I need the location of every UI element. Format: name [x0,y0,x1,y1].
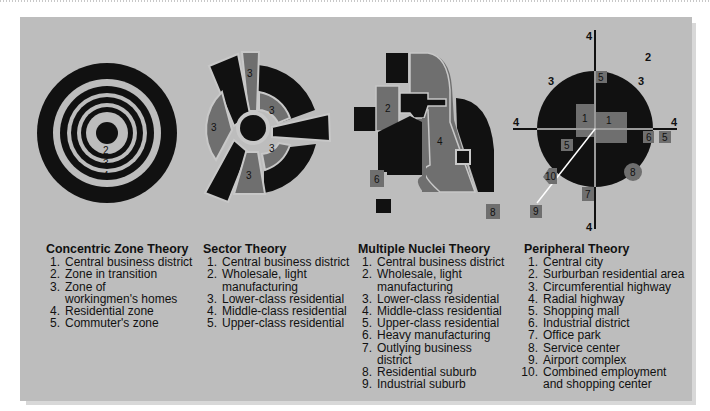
sector-label-3-bottom: 3 [246,170,252,181]
legend-item: 8.Service center [520,342,695,354]
legend-item: 3.Zone of workingmen's homes [46,281,196,305]
peripheral-label-10: 10 [545,171,557,182]
concentric-label-5: 5 [103,190,109,201]
legend-item: 2.Wholesale, light manufacturing [358,268,508,292]
sector-diagram: 3 3 3 3 3 [205,52,330,202]
concentric-label-4: 4 [103,170,109,181]
legend-title: Peripheral Theory [524,243,695,255]
concentric-label-1: 1 [104,128,110,139]
peripheral-label-1-left: 1 [582,113,588,124]
legend-multiple-nuclei: Multiple Nuclei Theory 1.Central busines… [358,243,508,390]
concentric-zone-diagram: 1 2 3 4 5 [37,63,177,203]
legend-item: 7.Outlying business district [358,342,508,366]
legend-item: 10.Combined employment and shopping cent… [520,366,695,390]
legend-item: 5.Commuter's zone [46,317,196,329]
peripheral-label-2: 2 [645,51,651,63]
legend-item: 6.Heavy manufacturing [358,329,508,341]
peripheral-label-3-right: 3 [638,75,644,87]
sector-label-3-left: 3 [211,122,217,133]
concentric-label-2: 2 [103,145,109,156]
legend-title: Concentric Zone Theory [46,243,196,255]
legend-item: 5.Upper-class residential [203,317,353,329]
legend-item: 3.Circumferential highway [520,281,695,293]
legend-item: 9.Industrial suburb [358,378,508,390]
peripheral-label-3-left: 3 [548,75,554,87]
sector-label-3-upper-right: 3 [269,105,275,116]
nuclei-label-2: 2 [385,103,391,114]
peripheral-label-6: 6 [646,132,652,143]
peripheral-label-7: 7 [585,189,591,200]
legend-sector: Sector Theory 1.Central business distric… [203,243,353,329]
legend-item: 2.Surburban residential area [520,268,695,280]
legend-item: 2.Wholesale, light manufacturing [203,268,353,292]
legend-title: Sector Theory [203,243,353,255]
legend-peripheral: Peripheral Theory 1.Central city 2.Surbu… [520,243,695,390]
multiple-nuclei-diagram: 2 4 6 8 [354,53,500,219]
legend-item: 2.Zone in transition [46,268,196,280]
peripheral-label-1-right: 1 [606,115,612,126]
nuclei-label-8: 8 [490,207,496,218]
concentric-label-3: 3 [103,158,109,169]
peripheral-label-4-bottom: 4 [586,221,593,233]
peripheral-label-9: 9 [533,206,539,217]
nuclei-label-4: 4 [437,136,443,147]
sector-label-3-top: 3 [247,68,253,79]
peripheral-label-8: 8 [630,167,636,178]
nuclei-label-6: 6 [374,174,380,185]
legend-title: Multiple Nuclei Theory [358,243,508,255]
legend-item: 7.Office park [520,329,695,341]
peripheral-diagram: 4 4 4 4 2 3 3 1 1 5 5 5 6 7 8 9 10 [513,30,678,233]
peripheral-label-4-top: 4 [586,30,593,42]
peripheral-label-5-top: 5 [598,72,604,83]
peripheral-label-4-right: 4 [671,116,678,128]
legend-concentric-zone: Concentric Zone Theory 1.Central busines… [46,243,196,329]
peripheral-label-4-left: 4 [513,116,520,128]
peripheral-label-5-right: 5 [662,132,668,143]
sector-label-3-lower-right: 3 [269,143,275,154]
peripheral-label-5-inner: 5 [564,140,570,151]
